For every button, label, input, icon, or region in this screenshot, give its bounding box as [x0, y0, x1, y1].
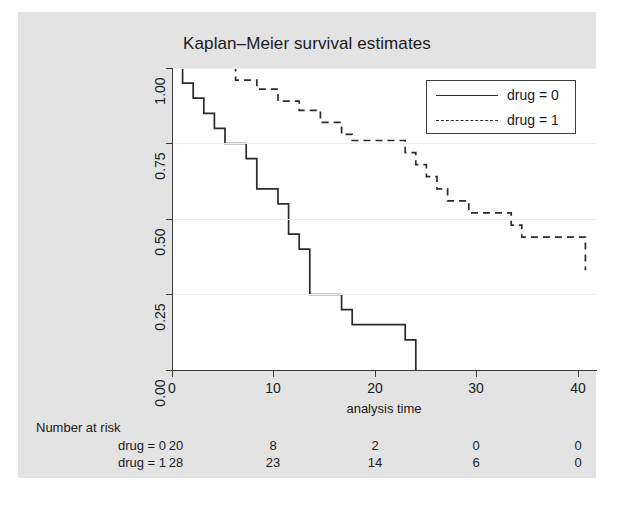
risk-cell-drug0-t20: 2 [355, 438, 395, 453]
legend-line-solid-icon [436, 89, 498, 101]
y-tick-label-0_25: 0.25 [152, 294, 168, 340]
legend-entry-drug-0: drug = 0 [427, 82, 575, 108]
risk-cell-drug1-t40: 0 [558, 455, 598, 470]
x-tick-label-40: 40 [558, 380, 598, 396]
risk-cell-drug0-t10: 8 [253, 438, 293, 453]
risk-row-label-drug-0: drug = 0 [74, 438, 166, 453]
risk-cell-drug0-t30: 0 [456, 438, 496, 453]
y-tick-label-0_50-wrap: 0.50 [110, 211, 160, 227]
x-tick-mark-10 [273, 371, 274, 377]
risk-cell-drug1-t0: 28 [156, 455, 196, 470]
gridline-0_25 [172, 294, 596, 295]
legend-line-dashed-icon [436, 114, 498, 126]
y-tick-label-0_00-wrap: 0.00 [110, 362, 160, 378]
legend-label-drug-1: drug = 1 [507, 112, 559, 128]
x-tick-mark-20 [375, 371, 376, 377]
y-tick-label-1_00-wrap: 1.00 [110, 60, 160, 76]
y-tick-label-0_25-wrap: 0.25 [110, 286, 160, 302]
x-tick-label-0: 0 [152, 380, 192, 396]
x-tick-label-10: 10 [253, 380, 293, 396]
risk-row-label-drug-1: drug = 1 [74, 455, 166, 470]
table-row: drug = 1 28 23 14 6 0 [18, 455, 596, 472]
x-axis-title: analysis time [172, 401, 596, 416]
table-row: drug = 0 20 8 2 0 0 [18, 438, 596, 455]
risk-cell-drug0-t40: 0 [558, 438, 598, 453]
y-tick-label-0_75-wrap: 0.75 [110, 135, 160, 151]
legend-entry-drug-1: drug = 1 [427, 107, 575, 133]
risk-table-title: Number at risk [36, 420, 121, 435]
page-title: Kaplan–Meier survival estimates [18, 34, 596, 54]
x-tick-mark-40 [578, 371, 579, 377]
y-tick-label-0_50: 0.50 [152, 219, 168, 265]
x-tick-label-30: 30 [456, 380, 496, 396]
risk-cell-drug1-t20: 14 [355, 455, 395, 470]
y-tick-label-1_00: 1.00 [152, 68, 168, 114]
risk-cell-drug1-t10: 23 [253, 455, 293, 470]
x-axis-line [172, 370, 597, 371]
x-tick-mark-0 [172, 371, 173, 377]
legend: drug = 0 drug = 1 [426, 80, 576, 134]
y-tick-label-0_75: 0.75 [152, 143, 168, 189]
risk-cell-drug0-t0: 20 [156, 438, 196, 453]
graph-region: Kaplan–Meier survival estimates 1.00 0.7… [18, 12, 596, 478]
screenshot-root: Kaplan–Meier survival estimates 1.00 0.7… [0, 0, 628, 506]
gridline-0_50 [172, 219, 596, 220]
x-tick-label-20: 20 [355, 380, 395, 396]
x-tick-mark-30 [476, 371, 477, 377]
risk-cell-drug1-t30: 6 [456, 455, 496, 470]
legend-label-drug-0: drug = 0 [507, 87, 559, 103]
risk-table: Number at risk drug = 0 20 8 2 0 0 drug … [18, 420, 596, 476]
gridline-0_75 [172, 143, 596, 144]
gridline-1_00 [172, 68, 596, 69]
